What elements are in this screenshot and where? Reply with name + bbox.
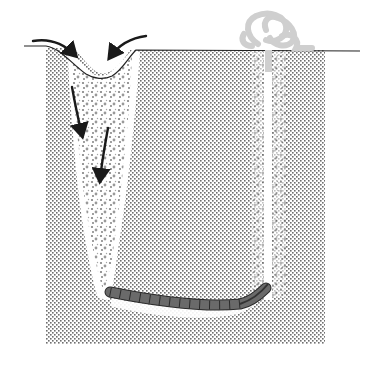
burrow-diagram <box>0 0 381 370</box>
fecal-casting <box>242 14 312 48</box>
tail-shaft <box>252 50 286 300</box>
